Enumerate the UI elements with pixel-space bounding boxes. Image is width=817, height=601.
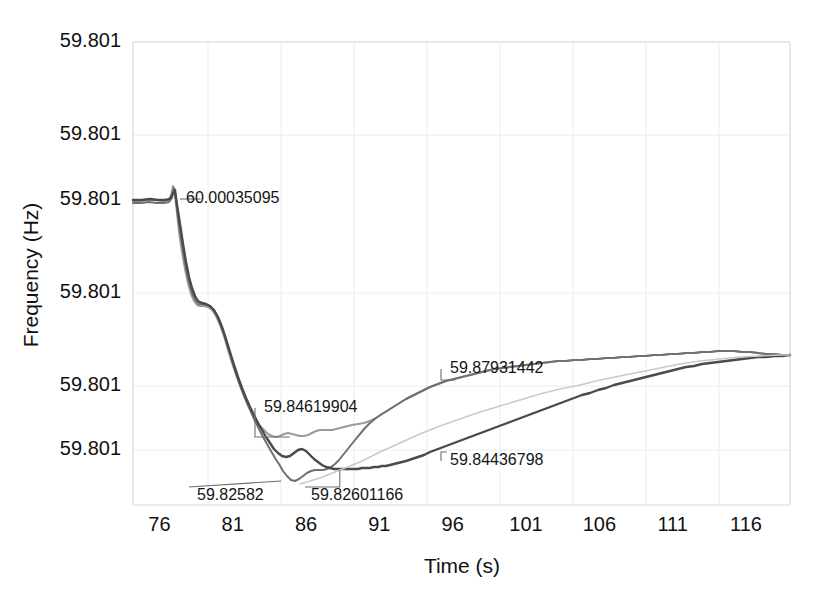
y-tick-label: 59.801 (60, 280, 121, 302)
annotation-label-mid-trace-minimum: 59.82582 (197, 486, 264, 503)
x-tick-label: 76 (148, 513, 170, 535)
y-tick-label: 59.801 (60, 122, 121, 144)
y-axis-title: Frequency (Hz) (19, 203, 42, 348)
x-tick-label: 91 (368, 513, 390, 535)
x-tick-label: 86 (295, 513, 317, 535)
annotation-label-dark-trace-recovery: 59.84436798 (450, 451, 544, 468)
x-tick-label: 96 (442, 513, 464, 535)
annotation-label-dark-trace-minimum: 59.82601166 (311, 486, 403, 503)
x-tick-label: 81 (222, 513, 244, 535)
chart-figure: 60.0003509559.8461990459.8793144259.8443… (0, 0, 817, 601)
annotation-label-nominal-prefault: 60.00035095 (186, 189, 280, 206)
y-tick-label: 59.801 (60, 29, 121, 51)
x-tick-label: 101 (509, 513, 542, 535)
x-axis-title: Time (s) (424, 554, 500, 577)
x-tick-label: 111 (657, 513, 687, 535)
annotation-label-light-trace-recovery: 59.87931442 (450, 359, 544, 376)
y-tick-label: 59.801 (60, 373, 121, 395)
y-tick-label: 59.801 (60, 187, 121, 209)
y-tick-label: 59.801 (60, 437, 121, 459)
annotation-label-light-trace-minimum: 59.84619904 (264, 398, 358, 415)
frequency-plot: 60.0003509559.8461990459.8793144259.8443… (0, 0, 817, 601)
x-tick-label: 116 (730, 513, 762, 535)
x-tick-label: 106 (583, 513, 616, 535)
x-axis-tick-labels: 7681869196101106111116 (148, 513, 762, 535)
figure-background (0, 0, 817, 601)
